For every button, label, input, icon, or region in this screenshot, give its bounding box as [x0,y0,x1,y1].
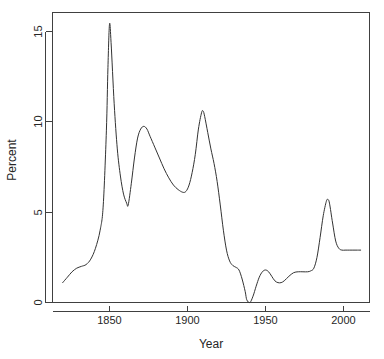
x-tick-label-1900: 1900 [175,314,199,326]
x-tick-label-1850: 1850 [97,314,121,326]
y-tick-label-0: 0 [32,299,44,305]
x-tick-label-1950: 1950 [253,314,277,326]
data-series-percent [63,23,361,302]
y-tick-label-15: 15 [32,25,44,37]
y-tick-label-10: 10 [32,115,44,127]
x-axis-title: Year [199,337,223,351]
y-axis: 15 10 5 0 [32,25,52,305]
chart-container: 15 10 5 0 1850 1900 1950 2000 Year Perce… [0,0,384,359]
y-tick-label-5: 5 [32,209,44,215]
y-axis-title: Percent [5,139,19,181]
x-tick-label-2000: 2000 [331,314,355,326]
line-chart: 15 10 5 0 1850 1900 1950 2000 Year Perce… [0,0,384,359]
plot-frame [53,13,370,303]
x-axis: 1850 1900 1950 2000 [53,306,370,327]
